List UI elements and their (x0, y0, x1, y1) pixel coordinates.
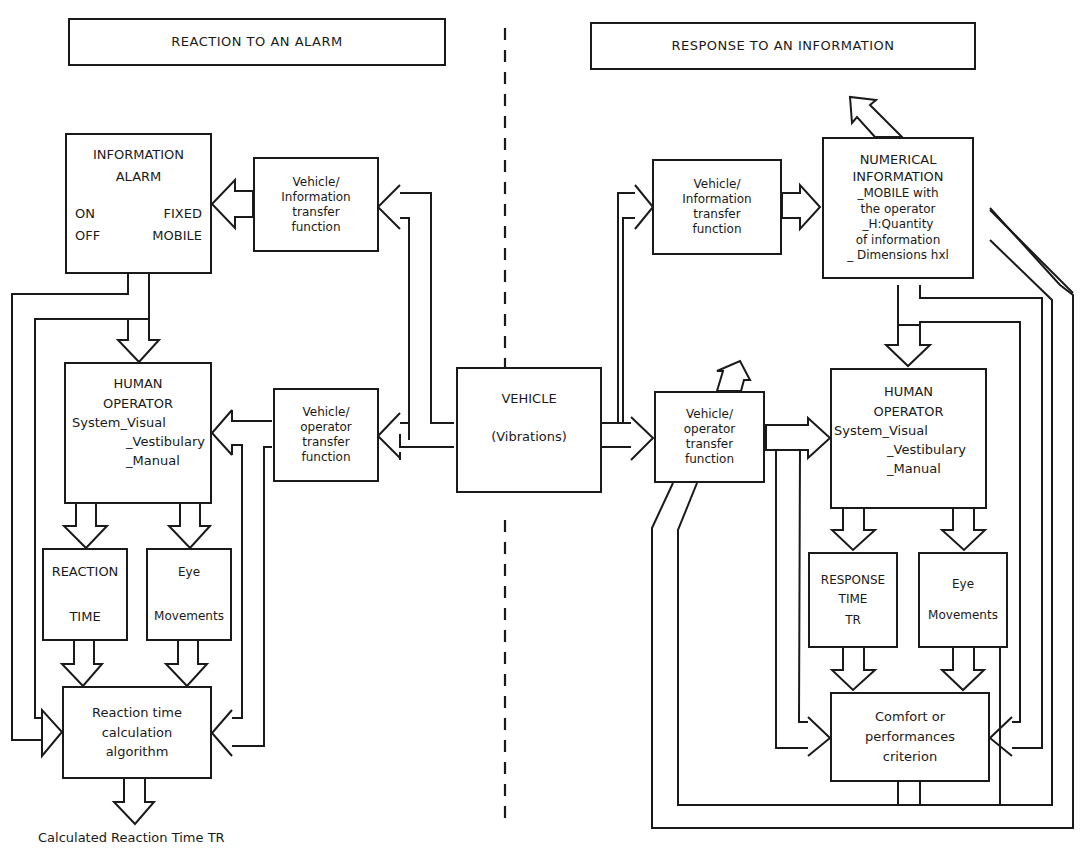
arrow-eye-to-algorithm (166, 640, 207, 686)
right-vehicle-operator-transfer-function: Vehicle/ operator transfer function (654, 391, 765, 483)
calculated-reaction-time-text: Calculated Reaction Time TR (38, 830, 225, 845)
lvitf-line2: Information (281, 190, 350, 205)
arrowhead-into-rvitf (635, 185, 653, 229)
rvotf-line4: function (685, 452, 734, 467)
arrow-rvitf-to-numerical (782, 185, 820, 229)
arrow-algorithm-output (114, 778, 154, 824)
arrowhead-into-criterion-left (808, 717, 830, 756)
wire-votf-down (232, 447, 272, 746)
numerical-line7: _ Dimensions hxl (847, 248, 949, 264)
criterion-line2: performances (865, 729, 955, 745)
rhuman-vestibulary: _Vestibulary (832, 442, 966, 458)
arrow-rvotf-up-out (717, 361, 750, 391)
reaction-time-algorithm-box: Reaction time calculation algorithm (62, 686, 212, 779)
lvotf-line1: Vehicle/ (303, 405, 350, 420)
comfort-criterion-box: Comfort or performances criterion (830, 692, 990, 782)
arrow-eye-to-criterion (942, 647, 984, 690)
left-vehicle-operator-transfer-function: Vehicle/ operator transfer function (273, 388, 379, 482)
arrow-numerical-up-out (850, 97, 902, 137)
right-panel-title: RESPONSE TO AN INFORMATION (590, 22, 976, 70)
alarm-line2: ALARM (116, 169, 162, 185)
alarm-on: ON (75, 206, 95, 222)
lhuman-system: System_Visual (66, 415, 166, 431)
reaction-time-line2: TIME (69, 609, 100, 625)
left-human-operator-box: HUMAN OPERATOR System_Visual _Vestibular… (64, 362, 212, 504)
wire-votf-top (400, 218, 409, 423)
lhuman-line2: OPERATOR (103, 396, 173, 412)
lvitf-line3: transfer (292, 205, 339, 220)
rhuman-manual: _Manual (832, 461, 941, 477)
response-time-line2: TIME (839, 592, 868, 607)
arrow-left-into-algorithm (42, 710, 62, 756)
reye-line1: Eye (952, 577, 974, 592)
numerical-line2: INFORMATION (852, 169, 943, 186)
arrow-roperator-to-eye (942, 508, 985, 550)
arrow-response-to-criterion (832, 647, 875, 690)
right-human-operator-box: HUMAN OPERATOR System_Visual _Vestibular… (830, 368, 987, 509)
rvitf-line2: Information (682, 192, 751, 207)
vehicle-box: VEHICLE (Vibrations) (456, 367, 602, 493)
numerical-line6: of information (856, 233, 941, 249)
rhuman-line2: OPERATOR (874, 404, 944, 420)
numerical-line4: the operator (860, 202, 935, 218)
lhuman-vestibulary: _Vestibulary (66, 434, 205, 450)
left-panel-title: REACTION TO AN ALARM (68, 18, 446, 66)
numerical-line1: NUMERICAL (860, 152, 937, 169)
arrow-alarm-to-operator (118, 319, 159, 362)
left-eye-movements-box: Eye Movements (146, 548, 232, 641)
rvotf-line1: Vehicle/ (686, 407, 733, 422)
reye-line2: Movements (928, 608, 998, 623)
alarm-mobile: MOBILE (152, 228, 202, 244)
arrowhead-into-votf-left (378, 413, 400, 458)
arrow-operator-to-eye (169, 503, 210, 548)
calculated-reaction-time-label: Calculated Reaction Time TR (38, 830, 225, 845)
arrowhead-into-operator (212, 410, 232, 455)
response-time-line1: RESPONSE (821, 573, 885, 588)
right-panel-title-text: RESPONSE TO AN INFORMATION (671, 38, 894, 54)
lvotf-line3: transfer (302, 435, 349, 450)
arrow-reaction-to-algorithm (62, 640, 102, 686)
wire-vehicle-to-rvitf-outer (602, 193, 635, 423)
right-eye-movements-box: Eye Movements (918, 552, 1008, 648)
arrow-numerical-to-operator (886, 325, 930, 366)
algorithm-line3: algorithm (106, 744, 169, 760)
left-panel-title-text: REACTION TO AN ALARM (171, 34, 342, 50)
rvotf-line2: operator (684, 422, 736, 437)
vehicle-line2: (Vibrations) (491, 429, 567, 445)
wire-vehicle-to-vitf-inner2 (400, 218, 409, 440)
reaction-time-box: REACTION TIME (42, 548, 128, 641)
leye-line1: Eye (178, 565, 200, 580)
criterion-line3: criterion (883, 749, 937, 765)
reaction-time-line1: REACTION (52, 564, 119, 580)
lvitf-line1: Vehicle/ (293, 175, 340, 190)
response-time-line3: TR (845, 613, 861, 628)
right-vehicle-information-transfer-function: Vehicle/ Information transfer function (652, 159, 782, 255)
rvitf-line1: Vehicle/ (694, 177, 741, 192)
alarm-row-off-mobile: OFF MOBILE (67, 228, 210, 244)
alarm-line1: INFORMATION (93, 147, 184, 163)
numerical-information-box: NUMERICAL INFORMATION _MOBILE with the o… (822, 137, 974, 279)
rvotf-line3: transfer (686, 437, 733, 452)
lhuman-line1: HUMAN (113, 376, 162, 392)
arrow-vitf-to-alarm (212, 180, 253, 228)
arrowhead-into-vitf (378, 185, 400, 229)
alarm-fixed: FIXED (164, 206, 202, 222)
arrowhead-right-into-algorithm (212, 710, 232, 756)
arrow-operator-to-reaction (64, 503, 107, 548)
wire-operator-to-criterion-left-inner (799, 450, 808, 722)
numerical-line5: _H:Quantity (863, 217, 934, 233)
response-time-box: RESPONSE TIME TR (808, 552, 898, 648)
wire-numerical-down-b (920, 285, 1042, 748)
arrowhead-into-rvotf (631, 417, 653, 460)
numerical-line3: _MOBILE with (857, 186, 938, 202)
wire-rvotf-to-criterion-left (766, 450, 808, 748)
left-vehicle-information-transfer-function: Vehicle/ Information transfer function (253, 157, 379, 252)
rhuman-system: System_Visual (832, 423, 928, 439)
lhuman-manual: _Manual (66, 453, 180, 469)
arrow-roperator-to-response (832, 508, 875, 550)
criterion-line1: Comfort or (875, 709, 945, 725)
leye-line2: Movements (154, 609, 224, 624)
alarm-row-on-fixed: ON FIXED (67, 206, 210, 222)
lvotf-line2: operator (300, 420, 352, 435)
alarm-off: OFF (75, 228, 100, 244)
